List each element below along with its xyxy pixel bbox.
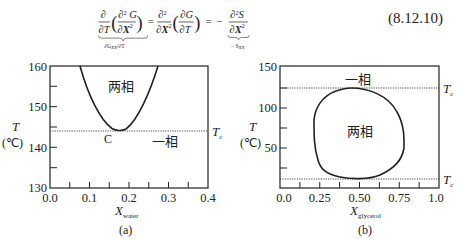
label-one-phase-b: 一相	[345, 72, 371, 87]
chart-b: 150 100 50 0.0 0.25 0.50 0.75 1.0 一相 两相 …	[240, 60, 453, 237]
y-axis-unit-b: (℃)	[240, 136, 261, 150]
y-tick: 100	[258, 101, 277, 115]
x-tick: 0.2	[121, 191, 137, 205]
coexistence-curve-a	[80, 66, 158, 130]
x-axis-label-a: Xwater	[114, 203, 139, 220]
y-tick: 150	[258, 60, 277, 74]
label-one-phase-a: 一相	[152, 134, 178, 149]
label-two-phase-a: 两相	[108, 79, 134, 94]
label-tc-lower: Tc	[443, 172, 453, 189]
y-axis-unit-a: (℃)	[2, 136, 23, 150]
x-tick: 0.3	[161, 191, 177, 205]
x-tick: 0.0	[42, 191, 58, 205]
x-tick: 0.4	[200, 191, 216, 205]
y-tick: 140	[28, 141, 47, 155]
label-tc-upper: Tc	[443, 81, 453, 98]
label-two-phase-b: 两相	[347, 124, 373, 139]
x-tick: 0.0	[276, 191, 292, 205]
charts: 160 150 140 130 0.0 0.1 0.2 0.3 0.4 两相 一…	[0, 0, 466, 239]
y-axis-label-a: T	[12, 119, 20, 134]
x-axis-label-b: Xglycerol	[349, 203, 381, 220]
panel-label-b: (b)	[358, 223, 372, 237]
chart-a: 160 150 140 130 0.0 0.1 0.2 0.3 0.4 两相 一…	[2, 60, 222, 237]
x-tick: 0.25	[309, 191, 331, 205]
y-axis-label-b: T	[249, 119, 257, 134]
y-tick: 150	[28, 100, 47, 114]
panel-label-a: (a)	[119, 223, 132, 237]
x-tick: 0.75	[388, 191, 410, 205]
label-tc-a: Tc	[212, 124, 222, 141]
y-tick: 50	[265, 141, 278, 155]
x-tick: 0.1	[82, 191, 98, 205]
label-critical-point: C	[104, 132, 112, 146]
y-tick: 160	[28, 60, 47, 74]
x-tick: 1.0	[428, 191, 444, 205]
